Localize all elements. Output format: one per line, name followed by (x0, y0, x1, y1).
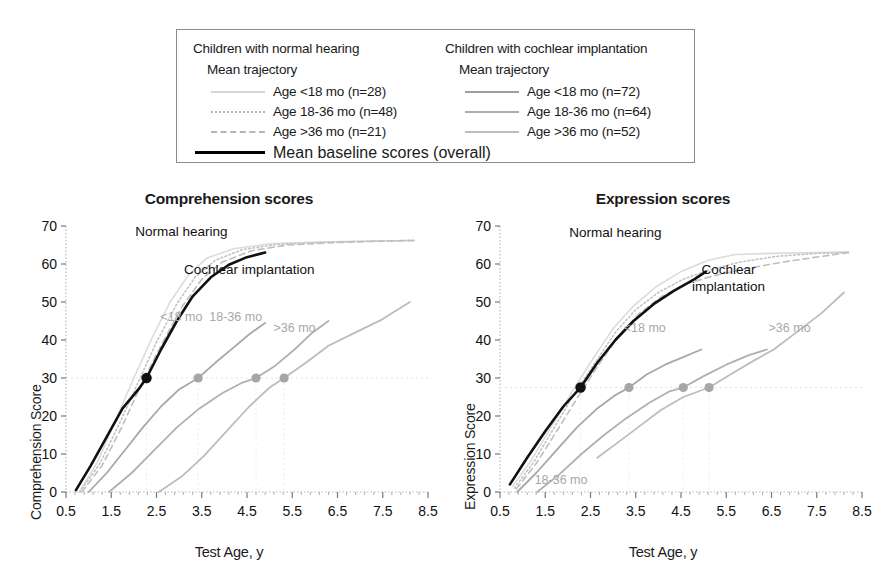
data-point-marker-0 (575, 382, 585, 392)
chart-canvas-expression: 0102030405060700.51.52.53.54.55.56.57.58… (448, 212, 878, 552)
y-tick-label: 20 (41, 408, 57, 424)
x-tick-label: 2.5 (581, 503, 601, 519)
legend-column-normal-hearing: Children with normal hearing Mean trajec… (177, 30, 435, 162)
legend-swatch-ci-under18 (465, 91, 519, 93)
x-tick-label: 5.5 (283, 503, 303, 519)
x-tick-label: 3.5 (626, 503, 646, 519)
legend-item-ci-18to36: Age 18-36 mo (n=64) (465, 102, 651, 121)
legend-swatch-nh-18to36 (211, 111, 265, 113)
legend-item-nh-18to36: Age 18-36 mo (n=48) (211, 102, 397, 121)
y-tick-label: 10 (475, 446, 491, 462)
series-line-normal-hearing-age-18-36-mo (80, 240, 415, 492)
series-line-cochlear-age-36-mo (597, 293, 844, 458)
annotation-normal-hearing: Normal hearing (135, 224, 227, 239)
x-tick-label: 6.5 (328, 503, 348, 519)
legend-swatch-mean-baseline (195, 151, 265, 154)
x-tick-label: 8.5 (852, 503, 872, 519)
y-tick-label: 70 (41, 218, 57, 234)
data-point-marker-2 (251, 373, 260, 382)
series-line-cochlear-age-18-mo (89, 323, 265, 492)
legend-heading-cochlear: Children with cochlear implantation (445, 41, 647, 56)
y-tick-label: 50 (41, 294, 57, 310)
data-point-marker-1 (624, 383, 633, 392)
annotation-36-mo: >36 mo (273, 321, 315, 335)
legend-item-ci-under18: Age <18 mo (n=72) (465, 82, 640, 101)
series-line-normal-hearing-age-36-mo (82, 240, 415, 492)
legend-item-nh-under18: Age <18 mo (n=28) (211, 82, 386, 101)
annotation-normal-hearing: Normal hearing (569, 225, 661, 240)
legend-label-ci-18to36: Age 18-36 mo (n=64) (527, 104, 651, 119)
y-tick-label: 20 (475, 408, 491, 424)
y-tick-label: 60 (475, 256, 491, 272)
annotation-18-mo: <18 mo (624, 321, 666, 335)
x-tick-label: 4.5 (237, 503, 257, 519)
data-point-marker-3 (280, 373, 289, 382)
x-tick-label: 0.5 (490, 503, 510, 519)
figure-caption (0, 572, 888, 587)
y-tick-label: 0 (49, 484, 57, 500)
y-tick-label: 50 (475, 294, 491, 310)
x-axis-label-comprehension: Test Age, y (14, 544, 444, 560)
x-tick-label: 4.5 (671, 503, 691, 519)
legend-label-ci-under18: Age <18 mo (n=72) (527, 84, 640, 99)
chart-panel-expression: Expression scores Expression Score 01020… (448, 190, 878, 560)
annotation-18-mo: <18 mo (160, 310, 202, 324)
y-tick-label: 40 (41, 332, 57, 348)
y-tick-label: 10 (41, 446, 57, 462)
series-line-cochlear-age-18-36-mo (109, 321, 328, 492)
legend-column-cochlear: Children with cochlear implantation Mean… (435, 30, 696, 162)
y-tick-label: 40 (475, 332, 491, 348)
chart-canvas-comprehension: 0102030405060700.51.52.53.54.55.56.57.58… (14, 212, 444, 552)
legend-subheading-cochlear: Mean trajectory (459, 62, 549, 77)
legend-swatch-nh-over36 (211, 131, 265, 133)
figure-root: Children with normal hearing Mean trajec… (0, 0, 888, 587)
annotation-36-mo: >36 mo (769, 321, 811, 335)
annotation-cochlear-implantation: Cochlear implantation (184, 262, 315, 277)
x-tick-label: 7.5 (807, 503, 827, 519)
y-tick-label: 30 (475, 370, 491, 386)
legend-swatch-nh-under18 (211, 91, 265, 93)
legend-item-nh-over36: Age >36 mo (n=21) (211, 122, 386, 141)
x-tick-label: 8.5 (418, 503, 438, 519)
x-tick-label: 5.5 (717, 503, 737, 519)
annotation-implantation: implantation (692, 279, 765, 294)
figure-legend: Children with normal hearing Mean trajec… (176, 29, 695, 163)
x-tick-label: 0.5 (56, 503, 76, 519)
data-point-marker-2 (679, 383, 688, 392)
legend-item-ci-over36: Age >36 mo (n=52) (465, 122, 640, 141)
legend-label-nh-18to36: Age 18-36 mo (n=48) (273, 104, 397, 119)
x-tick-label: 3.5 (192, 503, 212, 519)
legend-subheading-normal-hearing: Mean trajectory (207, 62, 297, 77)
legend-swatch-ci-over36 (465, 131, 519, 133)
x-tick-label: 1.5 (102, 503, 122, 519)
legend-heading-normal-hearing: Children with normal hearing (193, 41, 359, 56)
series-line-normal-hearing-age-36-mo (516, 253, 848, 489)
x-tick-label: 7.5 (373, 503, 393, 519)
legend-swatch-ci-18to36 (465, 111, 519, 113)
data-point-marker-1 (194, 373, 203, 382)
x-tick-label: 6.5 (762, 503, 782, 519)
legend-label-nh-under18: Age <18 mo (n=28) (273, 84, 386, 99)
chart-panel-comprehension: Comprehension scores Comprehension Score… (14, 190, 444, 560)
chart-title-comprehension: Comprehension scores (14, 190, 444, 208)
annotation-cochlear: Cochlear (701, 262, 756, 277)
x-tick-label: 2.5 (147, 503, 167, 519)
x-tick-label: 1.5 (536, 503, 556, 519)
chart-title-expression: Expression scores (448, 190, 878, 208)
data-point-marker-3 (704, 383, 713, 392)
data-point-marker-0 (141, 373, 151, 383)
y-tick-label: 30 (41, 370, 57, 386)
series-line-normal-hearing-age-18-mo (80, 240, 415, 492)
y-tick-label: 0 (483, 484, 491, 500)
y-tick-label: 70 (475, 218, 491, 234)
x-axis-label-expression: Test Age, y (448, 544, 878, 560)
legend-label-nh-over36: Age >36 mo (n=21) (273, 124, 386, 139)
series-line-cochlear-age-18-mo (517, 350, 701, 493)
annotation-18-36-mo: 18-36 mo (535, 473, 588, 487)
y-tick-label: 60 (41, 256, 57, 272)
legend-label-ci-over36: Age >36 mo (n=52) (527, 124, 640, 139)
series-line-mean-baseline-scores-overall (76, 253, 265, 491)
annotation-18-36-mo: 18-36 mo (209, 310, 262, 324)
